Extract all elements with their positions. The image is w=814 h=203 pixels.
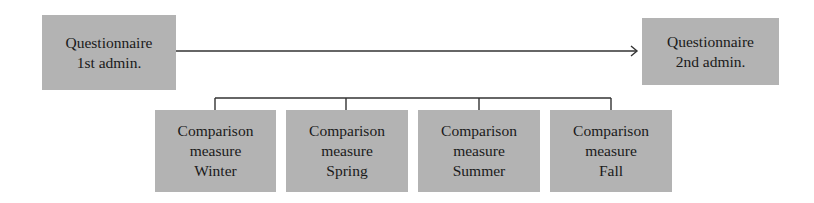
box-label: Comparison: [309, 121, 385, 141]
box-label: Comparison: [573, 121, 649, 141]
questionnaire-first-admin-box: Questionnaire 1st admin.: [42, 15, 176, 90]
comparison-winter-box: Comparison measure Winter: [155, 110, 276, 192]
box-label: 1st admin.: [77, 53, 142, 73]
box-label: measure: [321, 141, 373, 161]
box-label: Questionnaire: [667, 32, 754, 52]
box-label: Comparison: [441, 121, 517, 141]
comparison-spring-box: Comparison measure Spring: [286, 110, 408, 192]
box-label: 2nd admin.: [676, 52, 746, 72]
questionnaire-second-admin-box: Questionnaire 2nd admin.: [642, 18, 779, 85]
box-label: Winter: [194, 161, 236, 181]
box-label: measure: [453, 141, 505, 161]
comparison-fall-box: Comparison measure Fall: [550, 110, 672, 192]
box-label: Fall: [599, 161, 623, 181]
box-label: measure: [190, 141, 242, 161]
box-label: Comparison: [178, 121, 254, 141]
box-label: measure: [585, 141, 637, 161]
box-label: Summer: [453, 161, 506, 181]
box-label: Questionnaire: [66, 33, 153, 53]
box-label: Spring: [326, 161, 367, 181]
comparison-summer-box: Comparison measure Summer: [418, 110, 540, 192]
